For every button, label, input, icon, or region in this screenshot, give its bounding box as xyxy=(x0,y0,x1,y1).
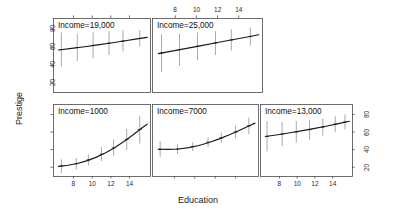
panel-strip-label-3: Income=1000 xyxy=(58,107,108,116)
panel-strip-label-4: Income=7000 xyxy=(157,107,207,116)
x-tick-label: 8 xyxy=(277,180,281,187)
y-tick-label: 60 xyxy=(49,43,56,50)
x-tick-label: 8 xyxy=(173,6,177,13)
fitted-line xyxy=(59,37,148,50)
y-tick-label: 20 xyxy=(49,79,56,86)
x-tick-label: 14 xyxy=(329,180,336,187)
panel-strip-label-1: Income=19,000 xyxy=(58,21,115,30)
x-tick-label: 12 xyxy=(214,6,221,13)
effect-plot-figure: Prestige Education Income=19,00020406080… xyxy=(0,0,396,217)
x-tick-label: 10 xyxy=(294,180,301,187)
x-tick-label: 8 xyxy=(72,180,76,187)
fitted-line xyxy=(265,121,349,136)
fitted-line xyxy=(158,35,258,54)
fitted-line xyxy=(59,124,148,166)
y-tick-label: 40 xyxy=(49,61,56,68)
x-tick-label: 12 xyxy=(107,180,114,187)
x-tick-label: 10 xyxy=(193,6,200,13)
panel-strip-label-5: Income=13,000 xyxy=(265,107,322,116)
panel-strip-label-2: Income=25,000 xyxy=(157,21,214,30)
x-tick-label: 14 xyxy=(235,6,242,13)
y-tick-label: 40 xyxy=(363,146,370,153)
y-tick-label: 60 xyxy=(363,128,370,135)
fitted-line xyxy=(158,123,255,149)
x-tick-label: 12 xyxy=(311,180,318,187)
x-tick-label: 14 xyxy=(126,180,133,187)
y-tick-label: 80 xyxy=(49,25,56,32)
y-axis-title: Prestige xyxy=(14,91,24,124)
y-tick-label: 20 xyxy=(363,163,370,170)
x-axis-title: Education xyxy=(178,195,218,205)
x-tick-label: 10 xyxy=(89,180,96,187)
y-tick-label: 80 xyxy=(363,111,370,118)
